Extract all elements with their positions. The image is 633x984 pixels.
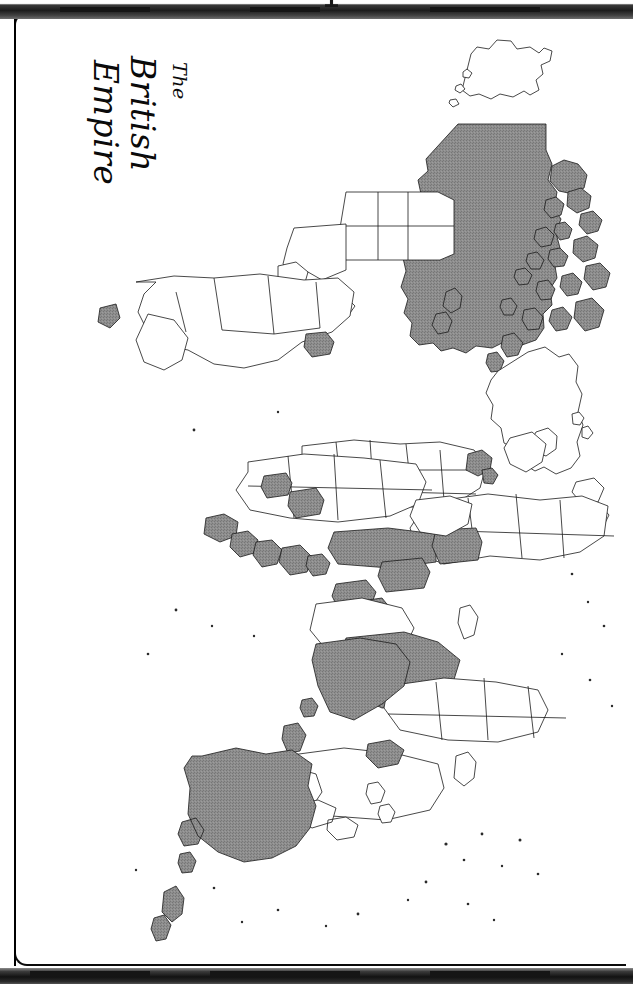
scanned-page: The British Empire (0, 0, 633, 984)
region-ceylon (300, 698, 318, 717)
region-ireland (482, 468, 498, 484)
region-alaska (462, 40, 552, 99)
region-australia (178, 748, 316, 862)
map-title: The British Empire (78, 30, 218, 220)
region-tanganyika (378, 558, 430, 592)
region-ghana (253, 540, 282, 567)
region-madagascar (458, 605, 478, 639)
region-egypt-north (288, 488, 324, 518)
region-burma-malaya (282, 723, 306, 753)
scan-edge-bottom (0, 968, 633, 984)
region-libya-edge (261, 473, 292, 498)
region-falkland-islands (98, 304, 120, 328)
region-british-guiana (304, 332, 334, 357)
region-tasmania (178, 852, 196, 873)
scan-edge-top (0, 0, 633, 19)
title-line-empire: Empire (86, 60, 125, 185)
title-line-british: British (123, 56, 162, 172)
title-line-the: The (169, 62, 191, 100)
region-new-zealand (151, 886, 184, 941)
region-japan (454, 752, 476, 786)
region-gold-coast (306, 554, 330, 576)
region-central-asia (384, 678, 548, 742)
